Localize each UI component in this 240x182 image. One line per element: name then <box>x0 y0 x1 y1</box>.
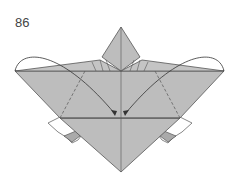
main-trapezoid <box>15 71 224 118</box>
origami-diagram <box>0 0 240 182</box>
bottom-triangle <box>60 118 180 172</box>
